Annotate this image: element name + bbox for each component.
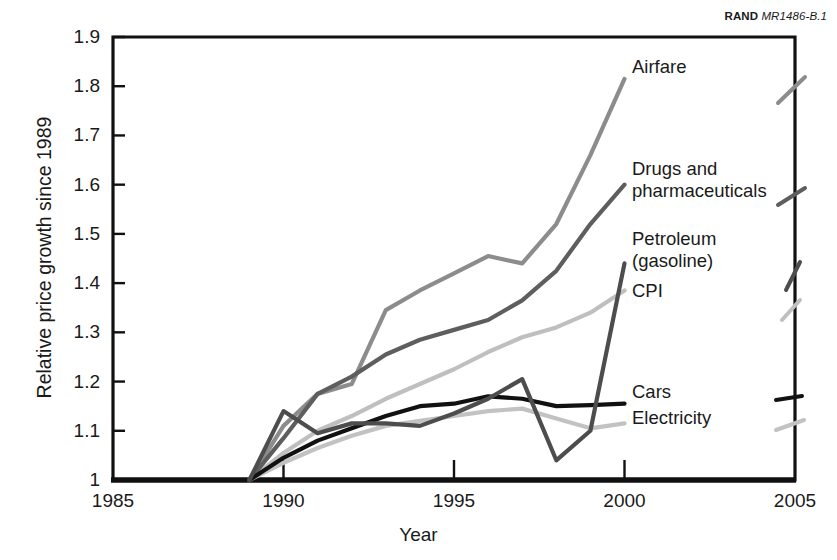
y-axis-tick-label: 1.9 xyxy=(28,26,100,48)
y-axis-tick-label: 1.6 xyxy=(28,174,100,196)
series-label-drugs-and-pharmaceuticals: Drugs and pharmaceuticals xyxy=(632,158,767,202)
y-axis-tick-label: 1.5 xyxy=(28,223,100,245)
series-label-airfare: Airfare xyxy=(632,56,687,78)
y-axis-tick-label: 1.8 xyxy=(28,75,100,97)
y-axis-tick-label: 1.3 xyxy=(28,321,100,343)
y-axis-tick-label: 1.4 xyxy=(28,272,100,294)
series-leader-cars xyxy=(776,396,802,400)
x-axis-tick-label: 1990 xyxy=(262,490,304,512)
y-axis-tick-label: 1 xyxy=(28,469,100,491)
x-axis-tick-label: 1985 xyxy=(92,490,134,512)
y-axis-tick-label: 1.7 xyxy=(28,124,100,146)
series-leader-airfare xyxy=(778,77,805,103)
x-axis-tick-label: 1995 xyxy=(433,490,475,512)
series-leader-drugs-and-pharmaceuticals xyxy=(778,188,805,205)
x-axis-tick-label: 2000 xyxy=(603,490,645,512)
series-label-cpi: CPI xyxy=(632,280,663,302)
series-label-cars: Cars xyxy=(632,381,671,403)
y-axis-tick-label: 1.2 xyxy=(28,371,100,393)
x-axis-tick-label: 2005 xyxy=(774,490,816,512)
plot-area xyxy=(0,0,837,560)
series-leader-petroleum-gasoline xyxy=(786,262,800,290)
chart-figure: RAND MR1486-B.1 Relative price growth si… xyxy=(0,0,837,560)
y-axis-tick-label: 1.1 xyxy=(28,420,100,442)
series-label-electricity: Electricity xyxy=(632,407,711,429)
series-leader-cpi xyxy=(782,300,800,320)
series-line-drugs-and-pharmaceuticals xyxy=(249,185,624,480)
series-label-petroleum-gasoline: Petroleum (gasoline) xyxy=(632,228,716,272)
series-leader-electricity xyxy=(776,420,804,430)
